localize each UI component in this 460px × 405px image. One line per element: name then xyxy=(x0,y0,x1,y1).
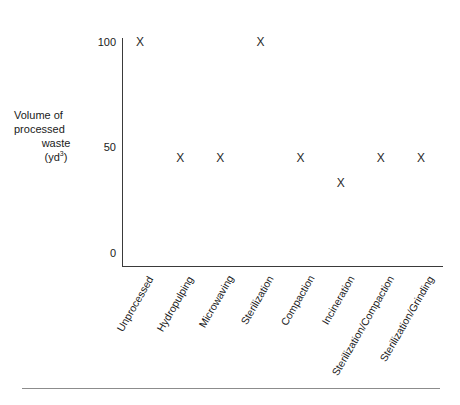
y-axis-title-line-1: Volume of xyxy=(8,108,104,122)
y-axis-title-line-4: (yd3) xyxy=(8,150,104,164)
data-point-marker: X xyxy=(256,36,264,48)
x-axis-category-label: Microwaving xyxy=(197,274,236,330)
y-axis-tick-label: 0 xyxy=(78,248,116,259)
chart-canvas: 050100 Volume of processed waste (yd3) X… xyxy=(0,0,460,405)
y-axis-tick-label: 100 xyxy=(78,37,116,48)
y-axis-title: Volume of processed waste (yd3) xyxy=(8,108,104,164)
y-axis-title-line-2: processed xyxy=(8,122,104,136)
y-axis-line xyxy=(122,38,123,267)
x-axis-category-label: Compaction xyxy=(279,274,317,328)
data-point-marker: X xyxy=(297,152,305,164)
data-point-marker: X xyxy=(176,152,184,164)
y-axis-unit-close: ) xyxy=(64,151,68,163)
data-point-marker: X xyxy=(216,152,224,164)
footer-divider xyxy=(22,388,440,389)
data-point-marker: X xyxy=(136,36,144,48)
y-axis-tick-value: 100 xyxy=(78,37,116,48)
data-point-marker: X xyxy=(377,152,385,164)
y-axis-title-line-3: waste xyxy=(8,136,104,150)
y-axis-unit-open: (yd xyxy=(45,151,60,163)
x-axis-category-label: Sterilization xyxy=(239,274,276,327)
x-axis-category-label: Unprocessed xyxy=(115,274,155,333)
data-point-marker: X xyxy=(337,177,345,189)
data-point-marker: X xyxy=(417,152,425,164)
x-axis-category-label: Incineration xyxy=(320,274,357,327)
x-axis-category-label: Hydropulping xyxy=(155,274,195,333)
y-axis-tick-value: 0 xyxy=(78,248,116,259)
x-axis-line xyxy=(122,266,443,267)
